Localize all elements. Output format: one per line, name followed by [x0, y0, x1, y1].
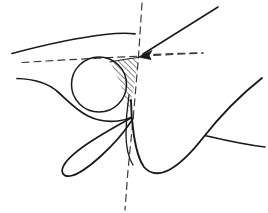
hatched-corner-region — [110, 58, 138, 113]
narrow-loop — [62, 118, 133, 176]
upper-tangent-arc — [12, 33, 135, 53]
annotation-arrow — [139, 7, 219, 60]
geometric-diagram — [0, 0, 268, 213]
left-envelope-curve — [17, 79, 131, 122]
hatch-fill-area — [110, 58, 138, 113]
inscribed-circle — [72, 57, 127, 112]
arrow-shaft — [143, 7, 218, 54]
curve-branch — [205, 136, 265, 148]
figure-container — [0, 0, 268, 213]
cusp-main-curve — [131, 78, 262, 173]
